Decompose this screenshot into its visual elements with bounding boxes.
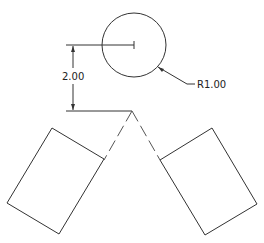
leader-arrow-icon [158, 67, 164, 72]
cad-drawing-canvas: 2.00 R1.00 [0, 0, 264, 243]
right-rectangle [160, 128, 257, 235]
hidden-line-right [132, 111, 160, 160]
hidden-line-left [104, 111, 132, 160]
radius-label: R1.00 [197, 79, 226, 90]
vertical-dimension: 2.00 [62, 46, 84, 110]
dimension-label-2: 2.00 [62, 71, 84, 82]
radius-leader: R1.00 [158, 67, 226, 90]
arrow-up-icon [71, 46, 75, 52]
arrow-down-icon [71, 104, 75, 110]
left-rectangle [7, 128, 104, 234]
